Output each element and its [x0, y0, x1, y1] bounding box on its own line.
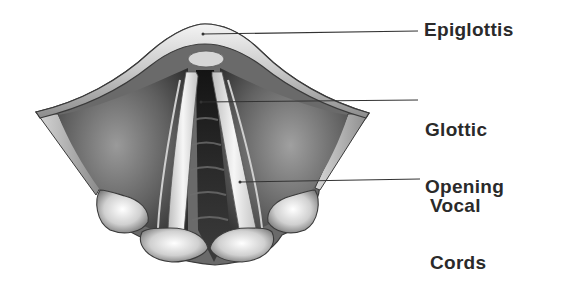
- label-epiglottis: Epiglottis: [424, 20, 514, 39]
- label-glottic-line1: Glottic: [425, 120, 504, 139]
- epiglottic-tubercle: [188, 51, 224, 67]
- label-vocal-line2: Cords: [430, 253, 486, 272]
- label-vocal-line1: Vocal: [430, 196, 486, 215]
- label-vocal-cords: Vocal Cords: [430, 158, 486, 285]
